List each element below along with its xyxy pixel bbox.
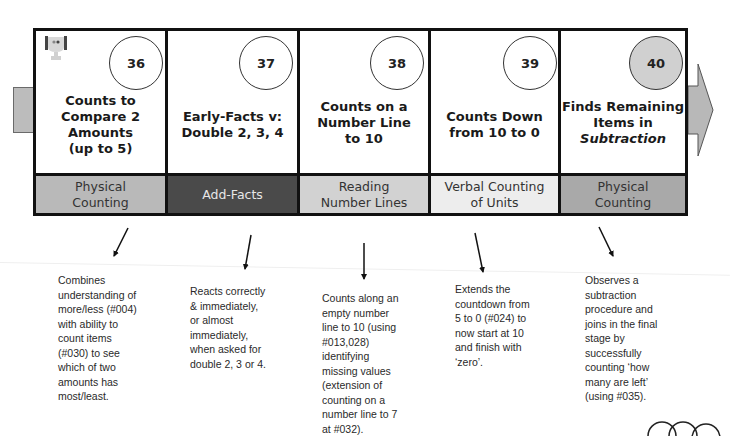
step-40-description: Observes a subtraction procedure and joi… (585, 273, 657, 404)
description-line: line to 10 (using (322, 320, 398, 335)
description-line: empty number (322, 306, 398, 321)
description-line: now start at 10 (455, 326, 530, 341)
description-line: Reacts correctly (190, 284, 266, 299)
pointer-arrow-37 (245, 235, 251, 269)
step-39-description: Extends the countdown from 5 to 0 (#024)… (455, 282, 530, 369)
description-line: double 2, 3 or 4. (190, 357, 266, 372)
description-line: count items (58, 331, 137, 346)
description-line: Combines (58, 273, 137, 288)
description-line: countdown from (455, 297, 530, 312)
step-37-description: Reacts correctly & immediately, or almos… (190, 284, 266, 371)
step-38-description: Counts along an empty number line to 10 … (322, 291, 398, 436)
description-line: #013,028) (322, 335, 398, 350)
pointer-arrow-40 (599, 227, 613, 256)
description-line: many are left’ (585, 375, 657, 390)
description-line: Counts along an (322, 291, 398, 306)
description-line: (using #035). (585, 389, 657, 404)
description-line: and finish with (455, 340, 530, 355)
partial-circles-icon (648, 422, 720, 436)
description-line: immediately, (190, 328, 266, 343)
description-line: procedure and (585, 302, 657, 317)
description-line: number line to 7 (322, 407, 398, 422)
description-line: missing values (322, 364, 398, 379)
pointer-arrow-39 (475, 233, 483, 272)
description-line: or almost (190, 313, 266, 328)
description-line: counting on a (322, 393, 398, 408)
description-line: (#030) to see (58, 346, 137, 361)
description-line: which of two (58, 360, 137, 375)
description-line: joins in the final (585, 317, 657, 332)
description-line: ‘zero’. (455, 355, 530, 370)
description-line: most/least. (58, 389, 137, 404)
step-36-description: Combines understanding of more/less (#00… (58, 273, 137, 404)
description-line: understanding of (58, 288, 137, 303)
description-line: successfully (585, 346, 657, 361)
description-line: amounts has (58, 375, 137, 390)
description-line: stage by (585, 331, 657, 346)
description-line: at #032). (322, 422, 398, 436)
description-line: & immediately, (190, 299, 266, 314)
description-line: subtraction (585, 288, 657, 303)
description-line: identifying (322, 349, 398, 364)
description-line: Observes a (585, 273, 657, 288)
description-line: 5 to 0 (#024) to (455, 311, 530, 326)
description-line: more/less (#004) (58, 302, 137, 317)
description-line: counting ‘how (585, 360, 657, 375)
description-line: (extension of (322, 378, 398, 393)
description-line: with ability to (58, 317, 137, 332)
pointer-arrow-36 (114, 228, 128, 256)
description-line: when asked for (190, 342, 266, 357)
description-line: Extends the (455, 282, 530, 297)
